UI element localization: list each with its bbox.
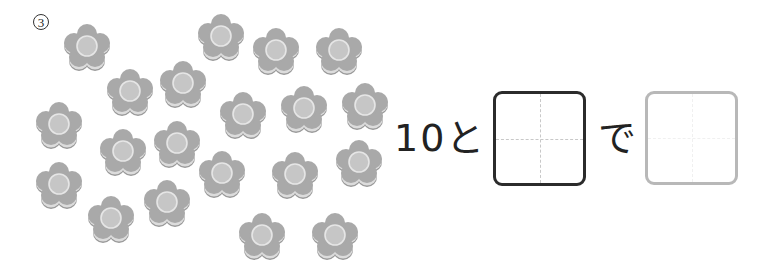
flower-icon [158,60,208,110]
flower-icon [98,128,148,178]
guide-line-horizontal [496,139,583,140]
flower-icon [279,85,329,135]
equation-text-de: で [598,119,638,157]
flower-icon [34,161,84,211]
flower-icon [314,27,364,77]
flower-icon [270,151,320,201]
flower-icon [34,101,84,151]
flower-icon [310,212,360,262]
flower-icon [251,27,301,77]
flower-icon [142,179,192,229]
answer-box-1[interactable] [493,91,586,186]
flower-icon [340,82,390,132]
flower-icon [218,91,268,141]
flower-icon [62,23,112,73]
flower-icon [196,13,246,63]
flower-icon [197,150,247,200]
flower-icon [152,120,202,170]
flower-icon [334,139,384,189]
answer-box-2[interactable] [645,91,738,185]
flower-icon [105,68,155,118]
flower-icon [237,212,287,262]
problem-number: 3 [33,14,49,30]
flower-icon [86,195,136,245]
guide-line-horizontal [648,138,735,139]
equation-text-ten-and: 10と [394,119,486,157]
